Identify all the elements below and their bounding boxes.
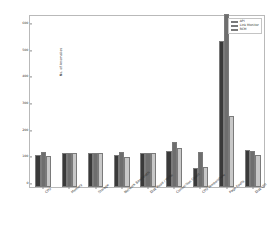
bar (255, 155, 260, 187)
x-axis-tick-mark (69, 187, 70, 189)
bar-group (109, 16, 135, 187)
bar-group (30, 16, 56, 187)
bar-group (187, 16, 213, 187)
bar-group (135, 16, 161, 187)
bar-group (82, 16, 108, 187)
bar-chart-figure: No. of Anomalies 0100200300400500600 CPU… (0, 0, 276, 229)
bar-group (161, 16, 187, 187)
y-axis-tick: 600 (22, 23, 30, 26)
plot-area: No. of Anomalies 0100200300400500600 CPU… (29, 15, 265, 188)
x-axis-tick-mark (148, 187, 149, 189)
x-axis-tick-mark (121, 187, 122, 189)
x-axis-tick-mark (174, 187, 175, 189)
legend-swatch (231, 21, 238, 24)
legend-swatch (231, 25, 238, 28)
y-axis-tick-label: 600 (22, 23, 30, 26)
x-axis-tick-mark (252, 187, 253, 189)
bar (151, 153, 156, 187)
bar-group (240, 16, 266, 187)
x-axis-tick-label: CPU (45, 188, 52, 195)
bar (229, 116, 234, 187)
chart-legend: APILink MonitorRCM (228, 18, 262, 34)
y-axis-tick-label: 100 (22, 156, 30, 159)
bar (124, 157, 129, 187)
x-axis-tick-mark (200, 187, 201, 189)
y-axis-tick-label: 200 (22, 129, 30, 132)
legend-swatch (231, 29, 238, 32)
x-axis-tick-mark (226, 187, 227, 189)
bar (46, 156, 51, 187)
x-axis-tick-mark (43, 187, 44, 189)
y-axis-tick: 500 (22, 49, 30, 52)
x-axis-tick-mark (95, 187, 96, 189)
bar (203, 167, 208, 187)
bar (98, 153, 103, 187)
y-axis-tick-label: 500 (22, 49, 30, 52)
y-axis-tick-label: 400 (22, 76, 30, 79)
y-axis-tick: 400 (22, 76, 30, 79)
y-axis-tick: 100 (22, 156, 30, 159)
bar (177, 148, 182, 187)
y-axis-tick: 300 (22, 102, 30, 105)
bar (72, 153, 77, 187)
legend-label: RCM (240, 28, 247, 31)
y-axis-tick-label: 300 (22, 102, 30, 105)
bar-group (56, 16, 82, 187)
bar-group (214, 16, 240, 187)
legend-item[interactable]: RCM (231, 28, 258, 31)
y-axis-tick: 200 (22, 129, 30, 132)
bars-layer (30, 16, 264, 187)
